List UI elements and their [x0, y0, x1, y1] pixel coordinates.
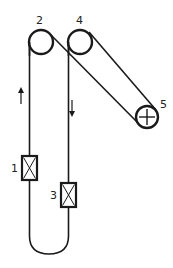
label-pulley-5: 5	[160, 98, 167, 111]
label-box-3: 3	[50, 189, 57, 202]
pulley-4	[68, 30, 92, 54]
label-pulley-4: 4	[76, 14, 83, 27]
bottom-loop	[30, 236, 69, 254]
diagonal-strand-lower	[50, 34, 139, 124]
component-box-3	[61, 183, 76, 207]
component-box-1	[22, 156, 37, 180]
label-box-1: 1	[11, 162, 18, 175]
arrow-down-icon	[69, 100, 75, 117]
belt-diagram: 2 4 5 1 3	[0, 0, 173, 268]
pulley-5	[136, 106, 158, 128]
arrow-up-icon	[18, 87, 24, 104]
label-pulley-2: 2	[36, 14, 43, 27]
pulley-2	[29, 30, 53, 54]
diagonal-strand-upper	[89, 32, 156, 110]
